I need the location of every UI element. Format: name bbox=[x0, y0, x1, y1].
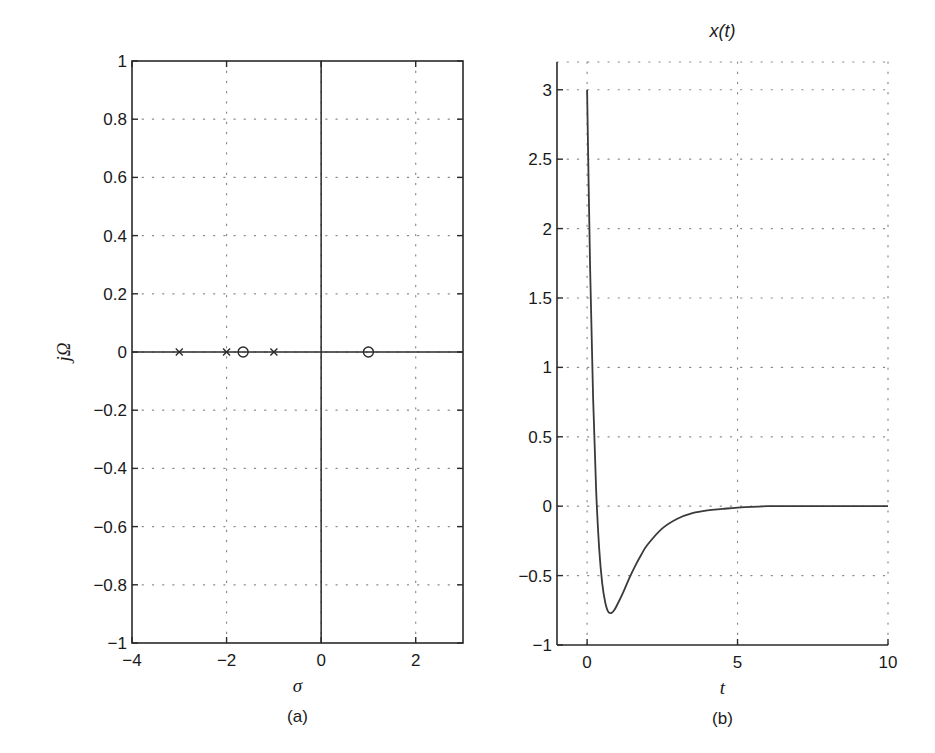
x-tick-label: −4 bbox=[122, 651, 141, 670]
x-tick-label: 5 bbox=[733, 653, 742, 672]
y-tick-label: −0.2 bbox=[93, 401, 127, 420]
y-tick-label: 2 bbox=[543, 220, 552, 239]
chart-title: x(t) bbox=[709, 21, 736, 41]
x-tick-label: 0 bbox=[316, 651, 325, 670]
y-tick-label: −0.6 bbox=[93, 518, 127, 537]
x-tick-label: −2 bbox=[217, 651, 236, 670]
y-tick-label: −1 bbox=[533, 636, 552, 655]
x-tick-label: 10 bbox=[879, 653, 898, 672]
y-tick-label: −0.4 bbox=[93, 459, 127, 478]
y-tick-label: 1 bbox=[543, 358, 552, 377]
y-tick-label: 2.5 bbox=[528, 150, 552, 169]
y-tick-label: 1 bbox=[118, 52, 127, 71]
y-tick-label: −0.5 bbox=[518, 567, 552, 586]
figure: −4−202−1−0.8−0.6−0.4−0.200.20.40.60.81σj… bbox=[0, 0, 935, 753]
time-response-plot: 0510−1−0.500.511.522.53tx(t)(b) bbox=[518, 21, 897, 728]
x-axis-label: t bbox=[720, 677, 726, 698]
y-tick-label: 0 bbox=[543, 497, 552, 516]
y-tick-label: 0.4 bbox=[103, 227, 127, 246]
y-tick-label: 1.5 bbox=[528, 289, 552, 308]
y-tick-label: −0.8 bbox=[93, 576, 127, 595]
panel-caption: (a) bbox=[287, 707, 308, 726]
y-tick-label: 0 bbox=[118, 343, 127, 362]
y-tick-label: 0.2 bbox=[103, 285, 127, 304]
y-axis-label: jΩ bbox=[53, 342, 74, 364]
y-tick-label: 0.5 bbox=[528, 428, 552, 447]
y-tick-label: 3 bbox=[543, 81, 552, 100]
response-curve bbox=[587, 90, 888, 613]
panel-caption: (b) bbox=[712, 709, 733, 728]
x-tick-label: 2 bbox=[411, 651, 420, 670]
x-tick-label: 0 bbox=[582, 653, 591, 672]
y-tick-label: 0.6 bbox=[103, 168, 127, 187]
pole-zero-plot: −4−202−1−0.8−0.6−0.4−0.200.20.40.60.81σj… bbox=[53, 52, 463, 726]
y-tick-label: 0.8 bbox=[103, 110, 127, 129]
y-tick-label: −1 bbox=[108, 634, 127, 653]
x-axis-label: σ bbox=[293, 675, 303, 696]
